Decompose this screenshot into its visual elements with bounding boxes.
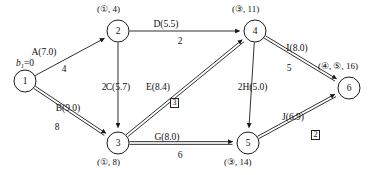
edge-label-E: E(8.4)	[146, 83, 170, 93]
edge-label-H: H(5.0)	[242, 83, 267, 93]
edge-G	[130, 142, 233, 145]
edge-boxed-weight-J: 2	[311, 130, 320, 140]
edge-label-D: D(5.5)	[153, 20, 178, 30]
edge-weight-C: 2	[102, 83, 107, 93]
node-label-3: 3	[116, 138, 121, 148]
node-tag-5: (③, 14)	[224, 158, 252, 167]
edge-weight-D: 2	[178, 37, 183, 47]
edge-weight-A: 4	[62, 65, 67, 75]
edge-label-B: B(9.0)	[56, 104, 81, 114]
edge-boxed-weight-E: 3	[170, 98, 179, 108]
edge-weight-I: 5	[287, 64, 292, 74]
node-1: 1	[14, 70, 36, 92]
node-tag-6: (④, ⑤, 16)	[318, 62, 358, 71]
source-node-b1-label: b1=0	[16, 59, 34, 70]
node-tag-4: (③, 11)	[232, 5, 259, 14]
network-graph: 123456	[0, 0, 386, 175]
node-label-6: 6	[347, 83, 352, 93]
node-label-2: 2	[116, 26, 121, 36]
edge-E	[126, 40, 244, 137]
node-layer: 123456	[14, 20, 360, 154]
edge-label-I: I(8.0)	[286, 44, 307, 54]
edge-label-G: G(8.0)	[154, 133, 179, 143]
node-label-1: 1	[23, 76, 28, 86]
node-label-5: 5	[246, 138, 251, 148]
node-4: 4	[244, 20, 266, 42]
edge-weight-G: 6	[178, 151, 183, 161]
node-5: 5	[237, 132, 259, 154]
edge-label-C: C(5.7)	[106, 83, 131, 93]
edge-label-J: J(6.9)	[282, 113, 304, 123]
edge-weight-H: 2	[238, 83, 243, 93]
node-tag-3: (①, 8)	[97, 158, 120, 167]
node-label-4: 4	[253, 26, 258, 36]
node-3: 3	[107, 132, 129, 154]
node-6: 6	[338, 77, 360, 99]
edge-label-A: A(7.0)	[31, 48, 56, 58]
node-2: 2	[107, 20, 129, 42]
node-tag-2: (①, 4)	[97, 5, 120, 14]
edge-weight-B: 8	[55, 123, 60, 133]
diagram-canvas: 123456 (①, 4)(①, 8)(③, 11)(③, 14)(④, ⑤, …	[0, 0, 386, 175]
